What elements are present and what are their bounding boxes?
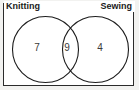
intersection-count: 9 [60, 43, 74, 53]
sewing-only-count: 4 [93, 43, 107, 53]
knitting-set-label: Knitting [6, 1, 40, 12]
sewing-set-label: Sewing [100, 1, 132, 12]
knitting-only-count: 7 [30, 43, 44, 53]
venn-diagram-figure: Knitting Sewing 7 9 4 [0, 0, 139, 90]
set-labels-band: Knitting Sewing [4, 1, 135, 12]
